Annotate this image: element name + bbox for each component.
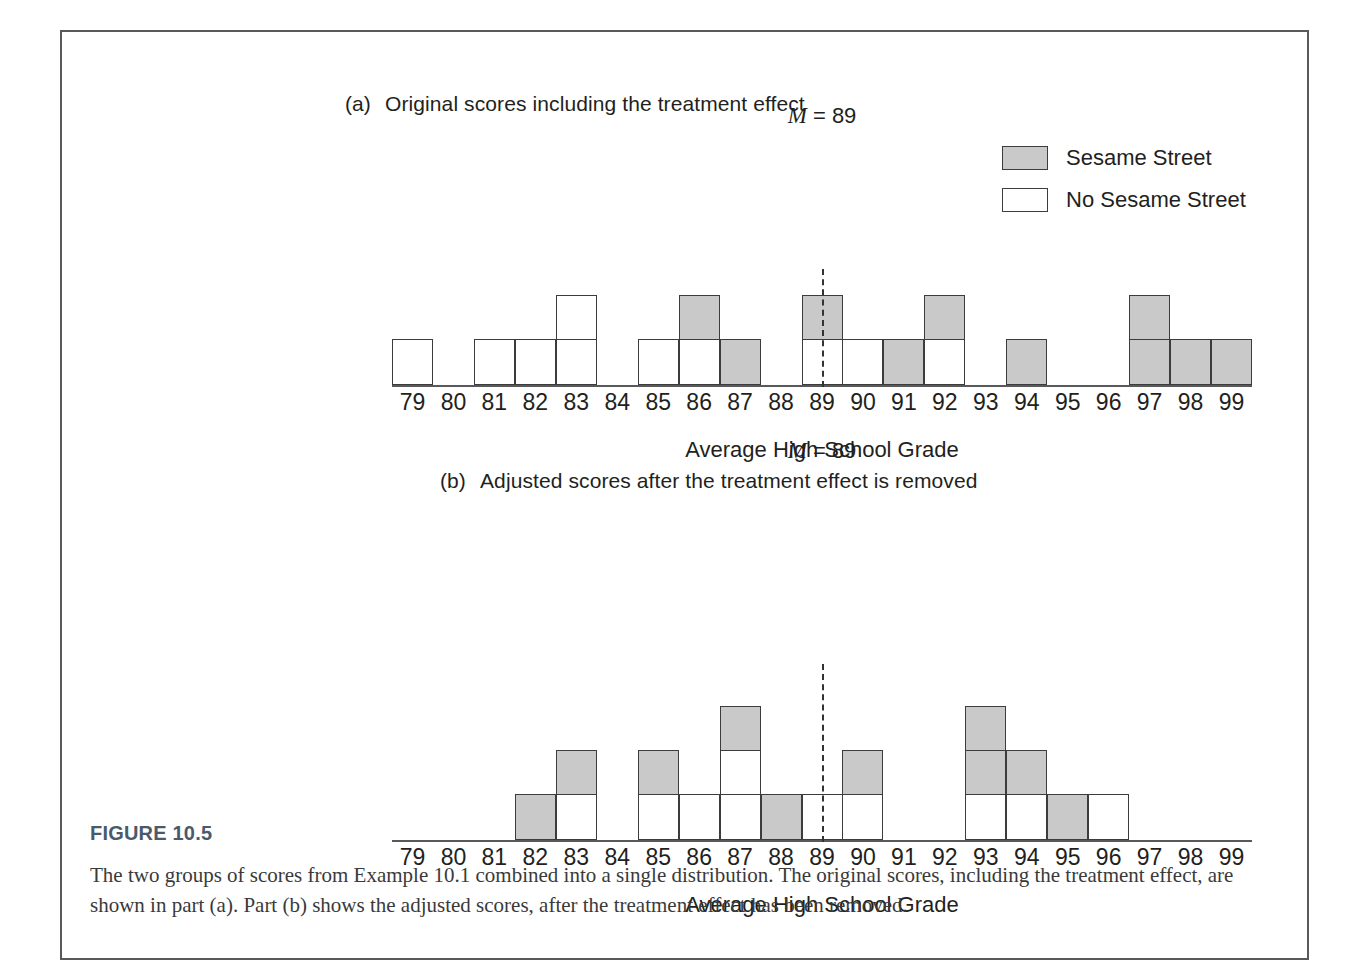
mean-symbol-a: M	[788, 103, 807, 128]
x-tick-label: 83	[563, 389, 589, 416]
x-tick-label: 97	[1137, 389, 1163, 416]
histogram-column	[679, 297, 720, 386]
histogram-column	[474, 341, 515, 385]
block-sesame-street	[924, 295, 965, 341]
block-sesame-street	[1006, 339, 1047, 385]
panel-b-tag: (b)	[440, 469, 480, 493]
mean-label-a: M = 89	[788, 103, 857, 129]
x-tick-label: 79	[400, 389, 426, 416]
histogram-column	[1211, 341, 1252, 385]
x-tick-label: 99	[1219, 389, 1245, 416]
block-no-sesame-street	[515, 339, 556, 385]
histogram-column	[924, 297, 965, 386]
mean-line-a	[822, 269, 824, 387]
panel-b-title-text: Adjusted scores after the treatment effe…	[480, 469, 978, 492]
block-no-sesame-street	[842, 339, 883, 385]
block-no-sesame-street	[924, 339, 965, 385]
mean-symbol-b: M	[788, 438, 807, 463]
block-sesame-street	[1006, 750, 1047, 796]
histogram-column	[392, 341, 433, 385]
x-tick-label: 92	[932, 389, 958, 416]
panel-b: (b)Adjusted scores after the treatment e…	[62, 452, 1307, 822]
histogram-column	[720, 341, 761, 385]
panel-a-title-text: Original scores including the treatment …	[385, 92, 805, 115]
block-sesame-street	[1129, 295, 1170, 341]
mean-value-a: = 89	[807, 103, 857, 128]
block-sesame-street	[556, 750, 597, 796]
block-sesame-street	[638, 750, 679, 796]
x-tick-label: 96	[1096, 389, 1122, 416]
histogram-column	[556, 297, 597, 386]
block-sesame-street	[720, 706, 761, 752]
histogram-column	[515, 341, 556, 385]
block-sesame-street	[965, 706, 1006, 752]
legend-swatch-icon-sesame-street	[1002, 146, 1048, 170]
figure-number: FIGURE 10.5	[90, 822, 1279, 845]
legend-item-sesame-street: Sesame Street	[1002, 137, 1246, 179]
block-sesame-street	[965, 750, 1006, 796]
x-axis-ticks-a: 7980818283848586878889909192939495969798…	[392, 389, 1252, 421]
block-sesame-street	[1211, 339, 1252, 385]
mean-value-b: = 89	[807, 438, 857, 463]
histogram-column	[842, 341, 883, 385]
x-tick-label: 90	[850, 389, 876, 416]
legend-label-sesame-street: Sesame Street	[1066, 145, 1212, 171]
histogram-column	[1129, 297, 1170, 386]
mean-label-b: M = 89	[788, 438, 857, 464]
x-tick-label: 80	[441, 389, 467, 416]
histogram-panel-b: M = 89 798081828384858687888990919293949…	[392, 622, 1252, 842]
x-tick-label: 85	[645, 389, 671, 416]
x-tick-label: 84	[604, 389, 630, 416]
histogram-column	[965, 707, 1006, 840]
mean-line-b	[822, 664, 824, 842]
x-tick-label: 94	[1014, 389, 1040, 416]
panel-b-title: (b)Adjusted scores after the treatment e…	[440, 469, 978, 493]
x-tick-label: 98	[1178, 389, 1204, 416]
x-tick-label: 86	[686, 389, 712, 416]
legend-item-no-sesame-street: No Sesame Street	[1002, 179, 1246, 221]
x-tick-label: 93	[973, 389, 999, 416]
block-no-sesame-street	[679, 339, 720, 385]
legend-swatch-icon-no-sesame-street	[1002, 188, 1048, 212]
block-no-sesame-street	[720, 750, 761, 796]
block-sesame-street	[679, 295, 720, 341]
caption-block: FIGURE 10.5 The two groups of scores fro…	[90, 822, 1279, 921]
block-sesame-street	[720, 339, 761, 385]
block-no-sesame-street	[474, 339, 515, 385]
histogram-column	[720, 707, 761, 840]
block-sesame-street	[1129, 339, 1170, 385]
panel-a: (a)Original scores including the treatme…	[62, 62, 1307, 452]
legend: Sesame Street No Sesame Street	[1002, 137, 1246, 221]
block-sesame-street	[842, 750, 883, 796]
x-tick-label: 82	[523, 389, 549, 416]
histogram-column	[638, 341, 679, 385]
histogram-panel-a: M = 89 798081828384858687888990919293949…	[392, 227, 1252, 387]
figure-frame: (a)Original scores including the treatme…	[60, 30, 1309, 960]
panel-a-tag: (a)	[345, 92, 385, 116]
block-no-sesame-street	[556, 295, 597, 341]
block-no-sesame-street	[556, 339, 597, 385]
block-no-sesame-street	[638, 339, 679, 385]
x-tick-label: 89	[809, 389, 835, 416]
panel-a-title: (a)Original scores including the treatme…	[345, 92, 805, 116]
figure-caption: The two groups of scores from Example 10…	[90, 861, 1279, 921]
legend-label-no-sesame-street: No Sesame Street	[1066, 187, 1246, 213]
histogram-column	[1170, 341, 1211, 385]
block-sesame-street	[883, 339, 924, 385]
x-tick-label: 91	[891, 389, 917, 416]
x-tick-label: 87	[727, 389, 753, 416]
x-tick-label: 81	[482, 389, 508, 416]
x-tick-label: 95	[1055, 389, 1081, 416]
histogram-column	[883, 341, 924, 385]
block-no-sesame-street	[392, 339, 433, 385]
block-sesame-street	[1170, 339, 1211, 385]
x-tick-label: 88	[768, 389, 794, 416]
histogram-column	[1006, 341, 1047, 385]
